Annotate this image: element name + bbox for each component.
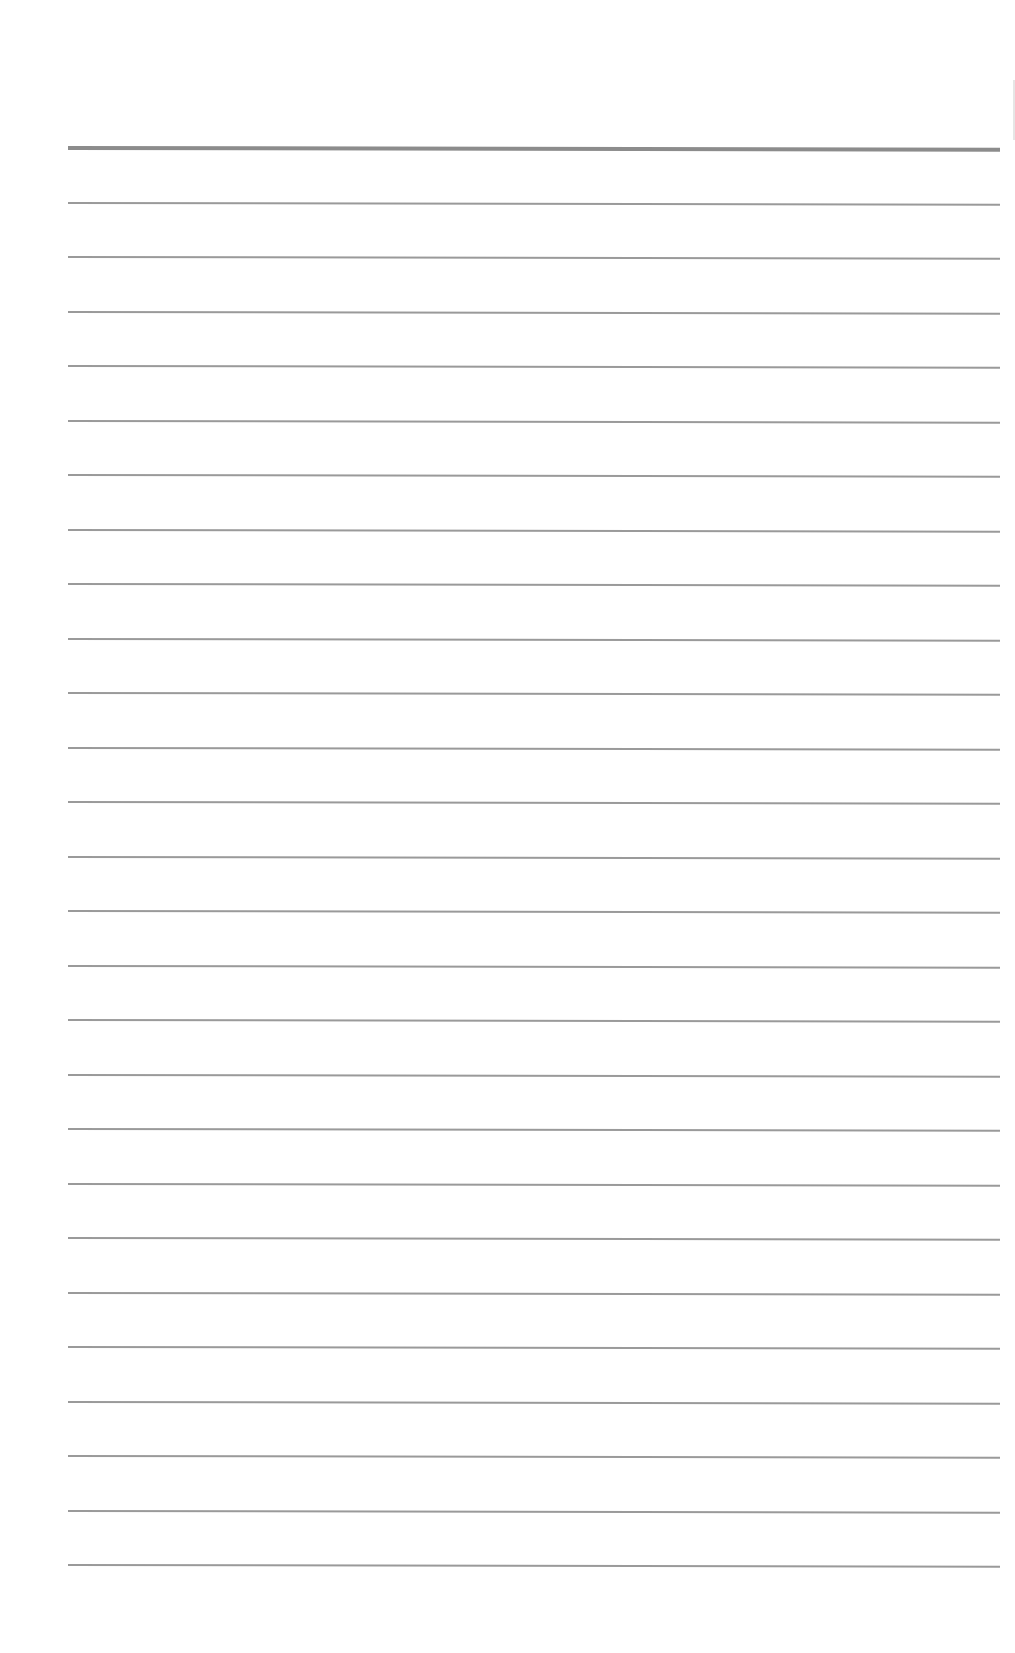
ruled-line bbox=[68, 529, 1000, 533]
ruled-line bbox=[68, 856, 1000, 860]
ruled-line bbox=[68, 965, 1000, 969]
ruled-line bbox=[68, 583, 1000, 587]
ruled-line bbox=[68, 1401, 1000, 1405]
ruled-line bbox=[68, 1510, 1000, 1514]
ruled-line bbox=[68, 801, 1000, 805]
ruled-line bbox=[68, 1183, 1000, 1187]
ruled-line bbox=[68, 256, 1000, 260]
ruled-line bbox=[68, 1346, 1000, 1350]
ruled-line bbox=[68, 311, 1000, 315]
ruled-line bbox=[68, 1455, 1000, 1459]
ruled-line bbox=[68, 1019, 1000, 1023]
ruled-line bbox=[68, 910, 1000, 914]
ruled-line bbox=[68, 1237, 1000, 1241]
ruled-line bbox=[68, 638, 1000, 642]
ruled-line bbox=[68, 202, 1000, 206]
ruled-line bbox=[68, 474, 1000, 478]
ruled-line bbox=[68, 1292, 1000, 1296]
ruled-line bbox=[68, 692, 1000, 696]
lined-paper-page bbox=[0, 0, 1015, 1653]
ruled-line bbox=[68, 1564, 1000, 1568]
ruled-line bbox=[68, 365, 1000, 369]
ruled-line bbox=[68, 1074, 1000, 1078]
header-rule-line bbox=[68, 146, 1000, 152]
ruled-line bbox=[68, 747, 1000, 751]
ruled-line bbox=[68, 420, 1000, 424]
ruled-line bbox=[68, 1128, 1000, 1132]
